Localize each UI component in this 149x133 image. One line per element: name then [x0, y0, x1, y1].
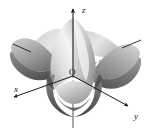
valley-inner-surface — [55, 81, 93, 104]
x-axis-label: x — [13, 84, 18, 94]
surface-plot-figure: z x y O — [0, 0, 149, 133]
origin-label: O — [69, 67, 76, 77]
y-axis-label: y — [133, 111, 138, 121]
z-axis-label: z — [81, 5, 86, 15]
surface-plot-canvas: z x y O — [0, 0, 149, 133]
